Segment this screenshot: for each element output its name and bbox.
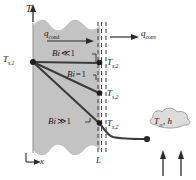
bi-equal-1-label: Bi = 1: [67, 70, 86, 79]
node-ts1: [30, 59, 36, 65]
bi-much-less-than-1-label: Bi ≪ 1: [52, 49, 75, 58]
convection-arrow-right-head: [178, 150, 184, 159]
wall-thickness-label: L: [96, 156, 101, 165]
q-conv-label: qconv: [141, 29, 156, 40]
surface-temp-left-label: Ts,1: [3, 55, 14, 66]
q-cond-label: qcond: [44, 29, 59, 40]
surface-temp-right-label-bi-much-greater-than-1: Ts,2: [107, 119, 118, 130]
fluid-cloud-label: T∞, h: [154, 117, 172, 128]
bi-much-greater-than-1-label: Bi ≫ 1: [48, 117, 71, 126]
conduction-convection-diagram: [0, 0, 196, 180]
free-stream-endpoint-dot: [144, 136, 150, 142]
surface-temp-right-label-bi-equal-1: Ts,2: [107, 89, 118, 100]
node-ts2-bi-much-greater-than-1: [97, 120, 103, 126]
temperature-axis-label: T: [26, 4, 32, 14]
node-ts2-bi-equal-1: [97, 90, 103, 96]
convection-arrow-left-head: [160, 150, 166, 159]
surface-temp-right-label-bi-much-less-than-1: Ts,2: [107, 58, 118, 69]
q-conv-arrow-head: [131, 34, 139, 40]
x-axis-label: x: [40, 157, 44, 166]
node-ts2-bi-much-less-than-1: [97, 60, 103, 66]
curve-bi-much-less-than-1: [33, 62, 99, 63]
